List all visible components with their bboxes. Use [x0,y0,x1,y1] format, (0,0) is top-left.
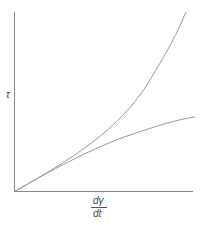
lower-curve [15,117,196,192]
chart-canvas [0,0,202,225]
x-axis-label-numerator: dγ [93,196,104,206]
x-axis-label-denominator: dt [93,209,101,219]
y-axis-label: τ [6,90,10,100]
upper-curve [15,12,187,192]
